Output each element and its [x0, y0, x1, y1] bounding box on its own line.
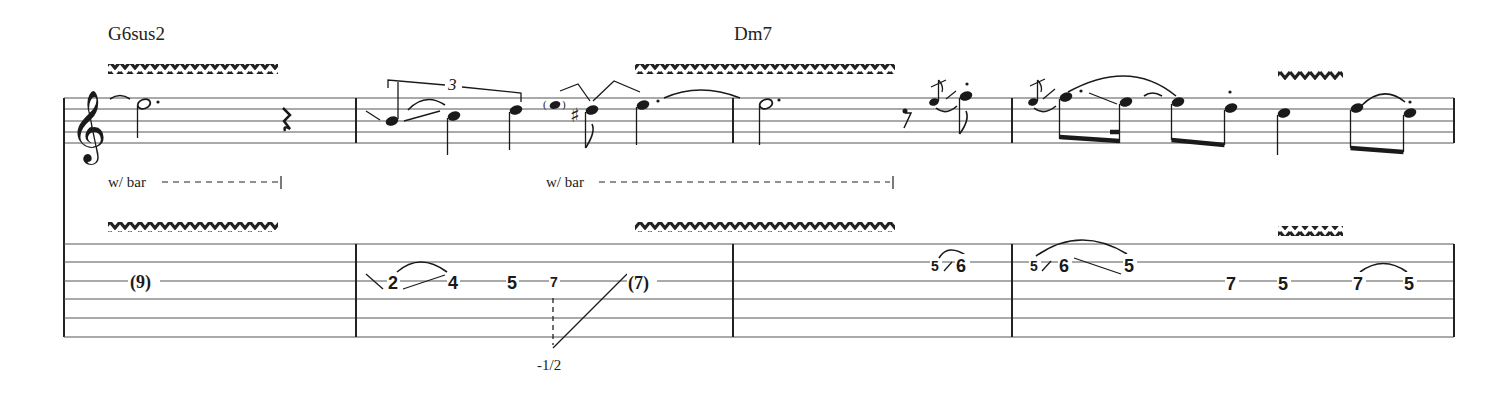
- quarter-rest: [283, 108, 290, 131]
- tab-fret: 5: [507, 273, 517, 293]
- svg-text:): ): [562, 98, 566, 111]
- vibrato-mark: [108, 64, 278, 74]
- svg-text:w/ bar: w/ bar: [108, 174, 146, 190]
- tab-fret: 2: [388, 273, 398, 293]
- triplet-number: 3: [447, 75, 457, 94]
- tab-fret: 7: [1226, 274, 1236, 294]
- svg-text:(: (: [543, 98, 547, 111]
- tab-fret: 4: [448, 273, 458, 293]
- chord-symbol-dm7: Dm7: [734, 23, 772, 44]
- tab-fret: 5: [1124, 256, 1134, 276]
- tab-fret: 6: [956, 256, 966, 276]
- vibrato-mark: [635, 222, 895, 232]
- tab-grace-fret: 5: [931, 258, 939, 274]
- measure-4-tab: 5 6 5 7 5 7 5: [1029, 240, 1417, 294]
- treble-clef-icon: 𝄞: [70, 89, 107, 165]
- whammy-bar-annotation-2: w/ bar: [546, 174, 893, 190]
- vibrato-mark: [108, 222, 278, 232]
- vibrato-mark: [1278, 226, 1343, 236]
- tab-fret: 5: [1404, 274, 1414, 294]
- tab-fret: 7: [1353, 274, 1363, 294]
- measure-3-notation: [758, 80, 973, 145]
- sheet-music: G6sus2 Dm7 𝄞 3: [0, 0, 1512, 406]
- vibrato-mark: [1278, 70, 1343, 80]
- tab-grace-fret: 5: [1030, 258, 1038, 274]
- svg-text:♯: ♯: [570, 103, 580, 127]
- bend-amount: -1/2: [537, 357, 561, 373]
- tab-fret: 7: [550, 274, 558, 290]
- tab-staff: [64, 244, 1454, 337]
- tab-fret: 6: [1059, 256, 1069, 276]
- whammy-bar-annotation-1: w/ bar: [108, 174, 281, 190]
- tab-fret: (9): [130, 272, 151, 293]
- chord-symbol-g6sus2: G6sus2: [108, 23, 165, 44]
- vibrato-mark: [635, 64, 895, 74]
- measure-1-tab: (9): [128, 272, 160, 293]
- svg-text:w/ bar: w/ bar: [546, 174, 584, 190]
- tab-fret: 5: [1278, 274, 1288, 294]
- svg-text:𝄞: 𝄞: [70, 89, 107, 165]
- tab-fret: (7): [628, 273, 649, 294]
- measure-3-tab: 5 6: [930, 250, 970, 276]
